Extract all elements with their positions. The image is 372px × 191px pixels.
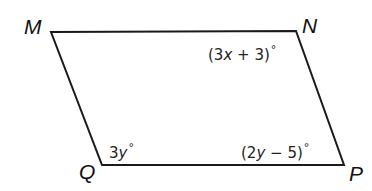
degree-symbol: ° (128, 141, 134, 154)
parallelogram-diagram: M N Q P (3x + 3)° 3y° (2y − 5)° (0, 0, 372, 191)
angle-p-post: − 5) (265, 144, 303, 162)
angle-label-n: (3x + 3)° (208, 44, 276, 63)
angle-q-var: y (119, 144, 128, 162)
vertex-label-q: Q (79, 161, 95, 182)
angle-label-p: (2y − 5)° (241, 142, 309, 161)
angle-n-post: + 3) (232, 46, 270, 64)
angle-n-var: x (223, 46, 232, 64)
angle-q-pre: 3 (109, 144, 119, 162)
angle-p-var: y (256, 144, 265, 162)
vertex-label-p: P (349, 163, 363, 184)
angle-label-q: 3y° (109, 142, 134, 161)
degree-symbol: ° (304, 141, 310, 154)
degree-symbol: ° (271, 43, 277, 56)
angle-p-pre: (2 (241, 144, 256, 162)
angle-n-pre: (3 (208, 46, 223, 64)
vertex-label-m: M (24, 16, 42, 37)
vertex-label-n: N (302, 15, 317, 36)
